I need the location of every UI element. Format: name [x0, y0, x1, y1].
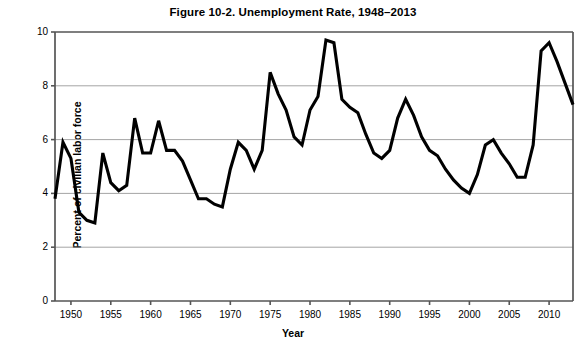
xtick-label-1960: 1960: [131, 310, 171, 320]
ytick-label-4: 4: [24, 188, 48, 198]
xtick-label-1985: 1985: [330, 310, 370, 320]
plot-area: [0, 0, 586, 349]
xtick-label-1995: 1995: [410, 310, 450, 320]
xtick-label-1950: 1950: [51, 310, 91, 320]
ytick-label-10: 10: [24, 27, 48, 37]
unemployment-rate-line: [55, 40, 573, 223]
xtick-label-1990: 1990: [370, 310, 410, 320]
xtick-label-2005: 2005: [489, 310, 529, 320]
xtick-label-2000: 2000: [449, 310, 489, 320]
ytick-label-8: 8: [24, 81, 48, 91]
xtick-label-1955: 1955: [91, 310, 131, 320]
ytick-label-0: 0: [24, 296, 48, 306]
data-series-group: [55, 40, 573, 223]
xtick-label-1965: 1965: [170, 310, 210, 320]
ytick-label-6: 6: [24, 135, 48, 145]
figure-unemployment-rate: Figure 10-2. Unemployment Rate, 1948–201…: [0, 0, 586, 349]
xtick-label-1975: 1975: [250, 310, 290, 320]
axes-group: [55, 32, 573, 301]
xtick-label-1970: 1970: [210, 310, 250, 320]
gridlines-group: [55, 86, 573, 247]
tick-marks-group: [51, 32, 549, 305]
ytick-label-2: 2: [24, 242, 48, 252]
xtick-label-2010: 2010: [529, 310, 569, 320]
xtick-label-1980: 1980: [290, 310, 330, 320]
